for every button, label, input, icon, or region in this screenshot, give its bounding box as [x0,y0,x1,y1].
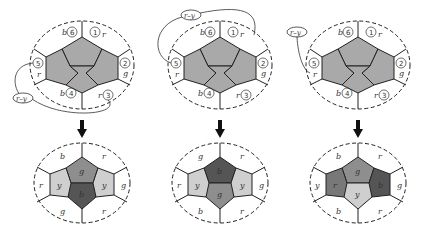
outer-right-color: g [397,181,402,190]
region-2-color: g [399,69,404,78]
top-map-a: b 6 1 r 2 g r 3 b 4 5 r r–y [13,21,134,113]
region-2-color: g [123,69,128,78]
region-3-num: 3 [244,92,248,100]
outer-left-color: r [177,181,182,190]
region-2-num: 2 [123,60,127,68]
outer-bottom-left-color: b [336,207,341,216]
region-5-color: r [37,70,42,79]
region-3-num: 3 [106,92,110,100]
region-5-color: r [313,70,318,79]
outer-bottom-right-color: r [102,207,107,216]
region-3-color: r [236,91,241,100]
region-4-num: 4 [345,90,350,98]
region-6-num: 6 [346,29,351,37]
outer-bottom-right-color: r [378,207,383,216]
region-2-num: 2 [399,60,403,68]
region-1-num: 1 [93,29,97,37]
region-3-num: 3 [382,92,386,100]
region-6-num: 6 [208,29,213,37]
inner-top-color: g [355,167,360,176]
top-map-b: b 6 1 r 2 g r 3 b 4 5 r r–y [158,9,272,109]
outer-top-right-color: r [378,152,383,161]
inner-top-color: b [217,167,222,176]
region-4-num: 4 [69,90,74,98]
inner-left-color: y [194,181,200,190]
region-1-color: r [240,30,245,39]
inner-bottom-color: b [79,190,84,199]
region-5-num: 5 [174,60,178,68]
outer-top-right-color: r [240,152,245,161]
outer-left-color: r [39,181,44,190]
kempe-chain-label: r–y [184,12,196,20]
outer-right-color: g [121,181,126,190]
region-5-num: 5 [312,60,316,68]
kempe-chain-label: r–y [290,29,302,37]
outer-top-right-color: r [102,152,107,161]
region-3-color: r [98,91,103,100]
inner-left-color: y [56,181,62,190]
region-4-num: 4 [207,90,212,98]
region-4-color: b [198,89,203,98]
region-5-color: r [175,70,180,79]
inner-top-color: g [79,167,84,176]
outer-bottom-left-color: b [198,207,203,216]
top-map-c: b 6 1 r 2 g r 3 b 4 5 r r–y [287,21,410,109]
outer-top-left-color: b [60,152,65,161]
down-arrows [77,120,363,138]
outer-top-left-color: g [198,152,203,161]
region-6-color: b [200,28,205,37]
region-2-num: 2 [261,60,265,68]
region-5-num: 5 [36,60,40,68]
region-1-color: r [102,30,107,39]
outer-top-left-color: b [336,152,341,161]
region-6-color: b [62,28,67,37]
kempe-chain-label: r–y [16,95,28,103]
region-1-num: 1 [369,29,373,37]
region-6-color: b [338,28,343,37]
bottom-map-a: g y y b b r g r g r [34,143,130,223]
outer-left-color: y [314,181,320,190]
region-2-color: g [261,69,266,78]
region-4-color: b [336,89,341,98]
outer-bottom-right-color: r [240,207,245,216]
bottom-map-c: g r b y b r g r b y [310,143,406,223]
region-6-num: 6 [70,29,75,37]
inner-bottom-color: g [217,190,222,199]
region-1-color: r [378,30,383,39]
inner-bottom-color: y [354,190,360,199]
inner-right-color: y [101,181,107,190]
inner-right-color: y [239,181,245,190]
region-3-color: r [374,91,379,100]
bottom-map-b: b y y g g r g r b r [172,143,268,223]
region-1-num: 1 [231,29,235,37]
region-4-color: b [60,89,65,98]
four-color-diagram: b 6 1 r 2 g r 3 b 4 5 r r–y b 6 1 r 2 g … [0,0,425,240]
inner-right-color: b [378,181,383,190]
outer-right-color: g [259,181,264,190]
outer-bottom-left-color: g [60,207,65,216]
